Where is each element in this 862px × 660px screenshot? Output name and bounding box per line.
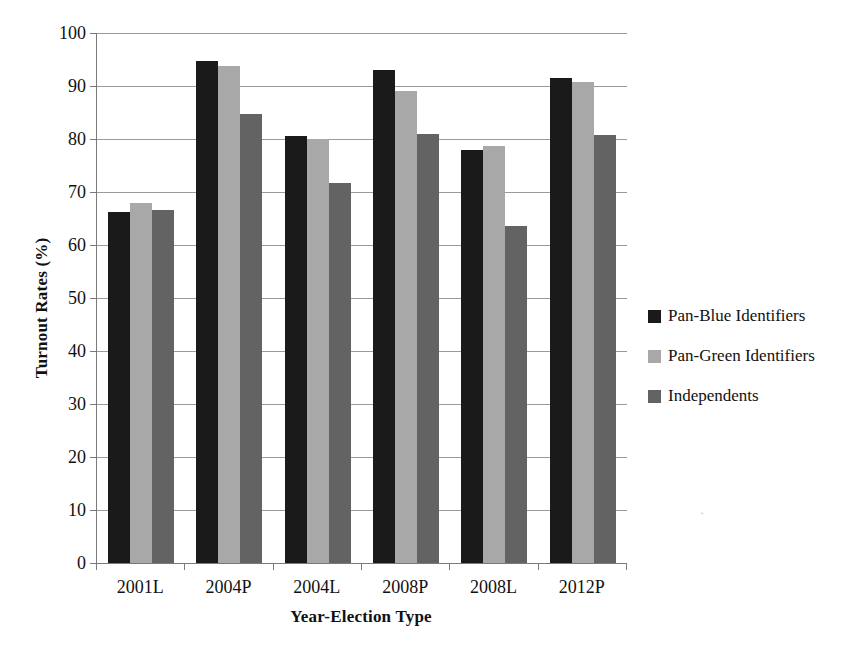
legend-swatch-icon <box>648 390 661 403</box>
x-tick-label: 2004P <box>205 577 251 598</box>
bar <box>218 66 240 563</box>
y-tick-mark <box>90 192 97 193</box>
scan-artifact: · <box>700 506 716 520</box>
bar <box>572 82 594 563</box>
bar-group <box>274 33 362 563</box>
y-tick-label: 50 <box>68 289 86 307</box>
bar-group <box>450 33 538 563</box>
y-tick-label: 40 <box>68 342 86 360</box>
x-tick-mark <box>273 563 274 570</box>
y-tick-mark <box>90 298 97 299</box>
x-tick-label: 2012P <box>559 577 605 598</box>
legend-swatch-icon <box>648 350 661 363</box>
bar <box>483 146 505 563</box>
y-tick-mark <box>90 86 97 87</box>
bar <box>373 70 395 563</box>
bar <box>594 135 616 563</box>
bar-chart: Turnout Rates (%) 0102030405060708090100… <box>0 0 862 660</box>
bar <box>417 134 439 563</box>
y-tick-label: 90 <box>68 77 86 95</box>
y-tick-label: 80 <box>68 130 86 148</box>
bar <box>550 78 572 563</box>
bar <box>240 114 262 563</box>
y-tick-label: 100 <box>59 24 86 42</box>
bar <box>395 91 417 563</box>
legend-label: Pan-Blue Identifiers <box>668 306 805 326</box>
legend-item: Pan-Blue Identifiers <box>648 296 854 336</box>
bar <box>461 150 483 563</box>
y-tick-mark <box>90 351 97 352</box>
bar-group <box>362 33 450 563</box>
bar-group <box>185 33 273 563</box>
y-tick-mark <box>90 510 97 511</box>
y-tick-label: 0 <box>77 554 86 572</box>
y-tick-label: 20 <box>68 448 86 466</box>
x-tick-label: 2004L <box>293 577 340 598</box>
y-tick-label: 70 <box>68 183 86 201</box>
legend-label: Independents <box>668 386 759 406</box>
y-tick-label: 10 <box>68 501 86 519</box>
x-tick-mark <box>184 563 185 570</box>
bar <box>307 139 329 563</box>
x-tick-label: 2008L <box>470 577 517 598</box>
y-tick-mark <box>90 245 97 246</box>
plot-area <box>96 33 626 563</box>
bar <box>285 136 307 563</box>
y-tick-mark <box>90 139 97 140</box>
x-tick-label: 2001L <box>117 577 164 598</box>
bar <box>505 226 527 563</box>
y-tick-label: 60 <box>68 236 86 254</box>
legend-item: Pan-Green Identifiers <box>648 336 854 376</box>
bar <box>329 183 351 563</box>
y-tick-label: 30 <box>68 395 86 413</box>
bars-layer <box>97 33 627 563</box>
x-axis-title: Year-Election Type <box>96 607 626 627</box>
y-tick-mark <box>90 457 97 458</box>
legend-swatch-icon <box>648 310 661 323</box>
x-tick-label: 2008P <box>382 577 428 598</box>
chart-legend: Pan-Blue IdentifiersPan-Green Identifier… <box>648 296 854 416</box>
x-tick-mark <box>538 563 539 570</box>
y-axis-tick-labels: 0102030405060708090100 <box>48 33 92 563</box>
bar <box>130 203 152 563</box>
y-tick-mark <box>90 404 97 405</box>
x-tick-mark <box>449 563 450 570</box>
bar-group <box>539 33 627 563</box>
legend-label: Pan-Green Identifiers <box>668 346 815 366</box>
x-tick-mark <box>96 563 97 570</box>
y-tick-mark <box>90 33 97 34</box>
x-tick-mark <box>626 563 627 570</box>
bar <box>152 210 174 564</box>
bar-group <box>97 33 185 563</box>
bar <box>196 61 218 563</box>
bar <box>108 212 130 563</box>
x-tick-mark <box>361 563 362 570</box>
legend-item: Independents <box>648 376 854 416</box>
